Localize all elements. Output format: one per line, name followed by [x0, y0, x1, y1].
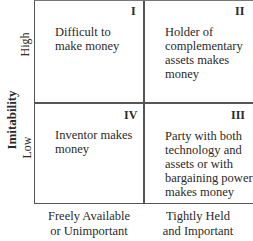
quadrant-grid: I Difficult to make money II Holder of c…: [34, 0, 253, 204]
horizontal-divider: [35, 102, 253, 104]
quadrant-number-iv: IV: [124, 108, 137, 123]
x-label-right: Tightly Held and Important: [143, 209, 253, 239]
quadrant-number-iii: III: [231, 108, 245, 123]
quadrant-number-ii: II: [235, 4, 244, 19]
y-axis-title: Imitability: [4, 90, 20, 149]
quadrant-ii-text: Holder of complementary assets makes mon…: [165, 25, 243, 81]
quadrant-i-text: Difficult to make money: [55, 25, 119, 53]
x-label-left: Freely Available or Unimportant: [34, 209, 144, 239]
quadrant-iv-text: Inventor makes money: [55, 128, 132, 156]
y-label-high: High: [18, 33, 33, 57]
quadrant-number-i: I: [131, 4, 136, 19]
quadrant-iii-text: Party with both technology and assets or…: [165, 129, 253, 199]
y-label-low: Low: [20, 137, 35, 159]
